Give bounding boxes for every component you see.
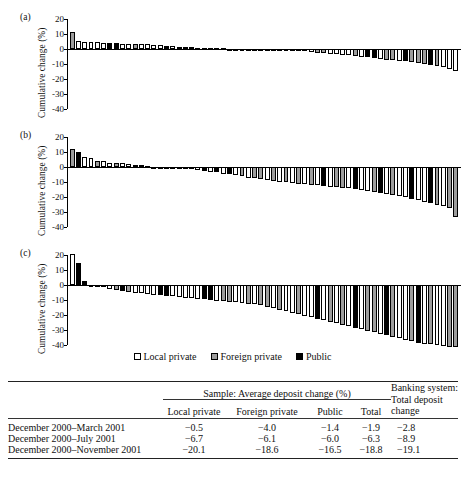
bar: [353, 167, 358, 189]
table-row: December 2000–July 2001 −6.7 −6.1 −6.0 −…: [8, 433, 458, 444]
bar: [309, 49, 314, 52]
bar: [145, 285, 150, 294]
ytick-10: 10: [55, 148, 64, 157]
bar: [208, 285, 213, 300]
bar: [296, 49, 301, 51]
panel-c-ytick-mark: [64, 315, 67, 316]
panel-c-ytick-mark: [64, 345, 67, 346]
legend-label-public: Public: [306, 351, 332, 362]
bar: [189, 167, 194, 169]
bar: [89, 285, 94, 287]
bar: [76, 41, 81, 49]
bar: [133, 285, 138, 293]
table-cell-local: −6.7: [163, 433, 225, 444]
table-bottom-rule: [8, 458, 458, 459]
bar: [416, 49, 421, 63]
table-cell-local: −0.5: [163, 422, 225, 433]
bar: [416, 285, 421, 343]
bar: [321, 49, 326, 53]
panel-b-y-ticklabels: 20 10 0 -10 -20 -30 -40: [38, 126, 64, 236]
ytick-m20: -20: [52, 75, 64, 84]
bar: [101, 161, 106, 167]
panel-b-ytick-mark: [64, 227, 67, 228]
bar: [359, 167, 364, 190]
bar: [290, 49, 295, 51]
bar: [151, 167, 156, 169]
bar: [233, 49, 238, 51]
panel-c-label: (c): [20, 248, 31, 258]
panel-a-ytick-mark: [64, 109, 67, 110]
bar: [252, 167, 257, 178]
bar: [158, 285, 163, 295]
bar: [258, 167, 263, 179]
bar: [265, 49, 270, 51]
bar: [384, 167, 389, 194]
panel-a-ytick-mark: [64, 79, 67, 80]
bar: [101, 285, 106, 287]
bar: [82, 157, 87, 167]
bar: [139, 44, 144, 49]
bar: [328, 285, 333, 322]
table-row-period: December 2000–November 2001: [8, 444, 163, 455]
table-cell-total: −1.9: [351, 422, 391, 433]
bar: [435, 49, 440, 66]
bar: [82, 42, 87, 50]
bar: [296, 167, 301, 184]
bar: [277, 285, 282, 310]
bar: [158, 167, 163, 169]
bar: [384, 285, 389, 335]
summary-table: Sample: Average deposit change (%) Banki…: [8, 381, 458, 459]
bar: [183, 167, 188, 169]
bar: [340, 167, 345, 188]
bar: [126, 285, 131, 292]
bar: [296, 285, 301, 314]
ytick-m20: -20: [52, 311, 64, 320]
panel-a-y-axis: [67, 19, 68, 109]
legend-item-public: Public: [296, 351, 332, 362]
panel-c-ytick-mark: [64, 330, 67, 331]
table-right-header-line1: Banking system:: [391, 382, 458, 394]
bar: [95, 161, 100, 167]
bar: [428, 285, 433, 344]
panel-b-ytick-mark: [64, 212, 67, 213]
bar: [290, 167, 295, 183]
bar: [89, 42, 94, 49]
table-cell-total: −18.8: [351, 444, 391, 455]
bar: [246, 285, 251, 304]
bar: [151, 45, 156, 50]
table-row-period: December 2000–July 2001: [8, 433, 163, 444]
table-cell-foreign: −6.1: [225, 433, 309, 444]
bar: [227, 285, 232, 302]
bar: [409, 49, 414, 62]
bar: [221, 285, 226, 301]
bar: [416, 167, 421, 200]
panel-a-plot-area: [67, 8, 461, 120]
bar: [390, 49, 395, 60]
bar: [227, 167, 232, 174]
bar: [70, 254, 75, 286]
bar: [120, 44, 125, 49]
chart-panel-a: (a) Cumulative change (%) 20 10 0 -10 -2…: [0, 8, 465, 126]
bar: [309, 285, 314, 317]
bar: [164, 285, 169, 296]
bar: [145, 166, 150, 168]
bar: [126, 44, 131, 49]
panel-b-ytick-mark: [64, 197, 67, 198]
table-col-header-total: Total: [351, 400, 391, 417]
bar: [453, 285, 458, 347]
table-col-header-public: Public: [309, 400, 351, 417]
bar: [277, 49, 282, 51]
bar: [195, 48, 200, 50]
ytick-m40: -40: [52, 105, 64, 114]
bar: [334, 49, 339, 54]
table-right-header-line2: Total deposit: [391, 394, 458, 406]
legend-label-foreign-private: Foreign private: [221, 351, 282, 362]
panel-a-ytick-mark: [64, 34, 67, 35]
bar: [70, 149, 75, 167]
bar: [403, 49, 408, 61]
bar: [315, 49, 320, 53]
ytick-20: 20: [55, 251, 64, 260]
bar: [240, 285, 245, 303]
panel-c-ytick-mark: [64, 255, 67, 256]
bar: [428, 167, 433, 203]
